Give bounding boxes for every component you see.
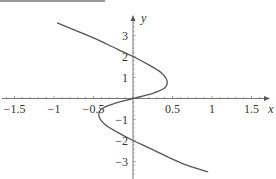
y-axis-arrow-icon — [131, 15, 136, 21]
x-tick-label: 1.5 — [244, 102, 259, 116]
x-axis-label: x — [267, 102, 274, 116]
x-tick-label: −1 — [48, 102, 61, 116]
chart: −1.5−1−0.50.511.5321−1−2−3xy — [0, 0, 276, 179]
y-tick-label: −1 — [115, 113, 128, 127]
x-tick-label: −1.5 — [4, 102, 26, 116]
y-tick-label: −2 — [115, 134, 128, 148]
y-tick-label: −3 — [115, 155, 128, 169]
x-tick-label: 1 — [209, 102, 215, 116]
y-tick-label: 3 — [122, 29, 128, 43]
x-axis-arrow-icon — [264, 96, 270, 101]
y-axis-label: y — [140, 11, 147, 25]
y-tick-label: 1 — [122, 71, 128, 85]
x-tick-label: 0.5 — [165, 102, 180, 116]
